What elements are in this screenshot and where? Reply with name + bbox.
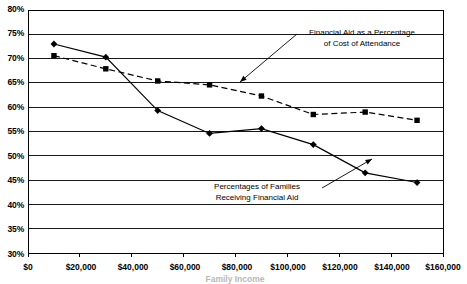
data-point-marker bbox=[414, 118, 419, 123]
data-point-marker bbox=[311, 112, 316, 117]
data-point-marker bbox=[51, 41, 58, 48]
data-point-marker bbox=[258, 125, 265, 132]
data-point-marker bbox=[310, 141, 317, 148]
data-point-marker bbox=[362, 109, 367, 114]
data-point-marker bbox=[103, 66, 108, 71]
data-point-marker bbox=[51, 53, 56, 58]
data-point-marker bbox=[259, 93, 264, 98]
data-point-marker bbox=[207, 82, 212, 87]
data-point-marker bbox=[362, 169, 369, 176]
annotation-arrowhead-1 bbox=[365, 159, 372, 165]
annotation-leader-line-0 bbox=[240, 34, 297, 82]
data-point-marker bbox=[155, 78, 160, 83]
